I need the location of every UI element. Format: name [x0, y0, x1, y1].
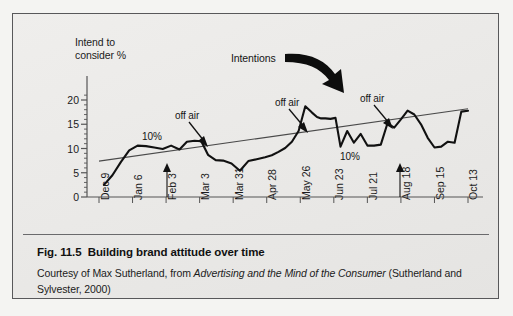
- ten-percent-arrow-1: [163, 163, 171, 197]
- trend-line: [99, 109, 468, 161]
- chart-svg: [13, 14, 500, 232]
- x-axis-ticks: [99, 197, 468, 203]
- caption-title-text: Building brand attitude over time: [88, 246, 265, 258]
- chart-area: Intend to consider % 20 15 10 5 0 Intent…: [13, 14, 500, 232]
- credit-prefix: Courtesy of Max Sutherland, from: [37, 267, 194, 279]
- ten-percent-arrow-2: [396, 163, 404, 197]
- caption-title-line: Fig. 11.5 Building brand attitude over t…: [37, 246, 485, 258]
- caption-credit: Courtesy of Max Sutherland, from Adverti…: [37, 265, 485, 297]
- caption-figure-number: Fig. 11.5: [37, 246, 81, 258]
- off-air-arrow-3: [374, 105, 393, 129]
- caption-divider: [23, 234, 489, 235]
- figure-caption: Fig. 11.5 Building brand attitude over t…: [37, 246, 485, 297]
- off-air-arrow-1: [189, 122, 208, 147]
- figure-screenshot: Intend to consider % 20 15 10 5 0 Intent…: [0, 0, 513, 316]
- intentions-curved-arrow: [285, 54, 344, 93]
- data-series-line: [104, 106, 468, 185]
- y-axis-ticks: [81, 95, 87, 197]
- figure-panel: Intend to consider % 20 15 10 5 0 Intent…: [12, 13, 499, 299]
- credit-book-title: Advertising and the Mind of the Consumer: [194, 267, 386, 279]
